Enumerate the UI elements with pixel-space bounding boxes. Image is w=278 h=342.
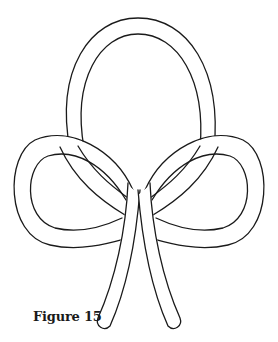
figure-caption: Figure 15 — [33, 309, 102, 324]
right-loop — [145, 136, 264, 248]
knot-illustration — [0, 0, 278, 342]
knot-figure: Figure 15 — [0, 0, 278, 342]
left-loop — [14, 136, 133, 248]
top-loop — [66, 18, 215, 150]
